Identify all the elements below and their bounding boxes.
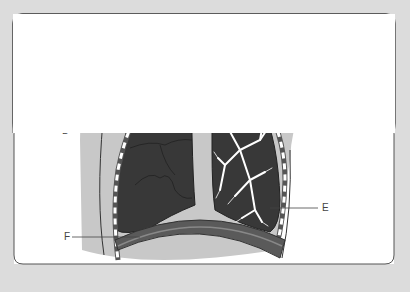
anatomy-svg xyxy=(0,0,410,292)
